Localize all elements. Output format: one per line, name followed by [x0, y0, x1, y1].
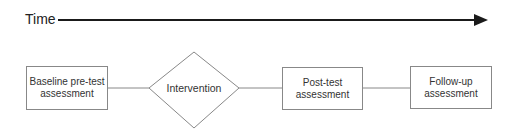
time-arrow-head-icon	[474, 14, 488, 26]
stage-followup-label: Follow-up assessment	[411, 76, 491, 100]
stage-posttest-label: Post-test assessment	[283, 77, 362, 101]
stage-posttest-box: Post-test assessment	[282, 67, 363, 110]
stage-baseline-box: Baseline pre-test assessment	[26, 66, 108, 110]
stage-intervention-label: Intervention	[149, 82, 239, 94]
stage-followup-box: Follow-up assessment	[410, 66, 492, 109]
stage-baseline-label: Baseline pre-test assessment	[27, 76, 107, 100]
